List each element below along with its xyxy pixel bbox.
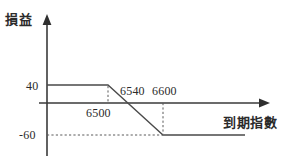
payoff-diagram-figure: 損益 到期指數 40 -60 6500 6540 6600 [0, 0, 295, 163]
y-tick-label-negative-60: -60 [19, 129, 36, 141]
x-tick-label-6540: 6540 [120, 85, 145, 97]
x-axis-label: 到期指數 [223, 116, 277, 129]
x-axis [39, 99, 270, 108]
x-tick-label-6500: 6500 [86, 107, 111, 119]
y-tick-label-40: 40 [26, 80, 38, 92]
payoff-line [47, 85, 245, 135]
payoff-chart-canvas [0, 0, 295, 163]
y-axis-label: 損益 [5, 13, 32, 26]
x-tick-label-6600: 6600 [152, 85, 177, 97]
